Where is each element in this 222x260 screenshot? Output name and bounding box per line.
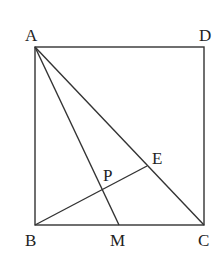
label-m: M	[110, 231, 125, 250]
geometry-diagram: A D B M C E P	[0, 0, 222, 260]
segment-ac	[35, 47, 204, 225]
label-p: P	[103, 166, 112, 185]
label-d: D	[199, 26, 211, 45]
label-e: E	[152, 149, 162, 168]
label-a: A	[25, 26, 38, 45]
segment-am	[35, 47, 119, 225]
segment-be	[35, 166, 147, 225]
label-c: C	[198, 231, 209, 250]
label-b: B	[25, 231, 36, 250]
